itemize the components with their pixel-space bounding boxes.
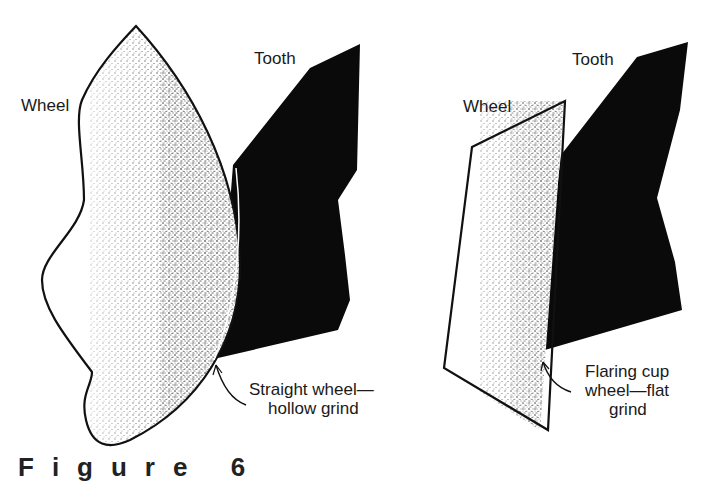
annotation-right-line2: wheel—flat [585, 381, 669, 400]
figure-caption-partial: Figure 6 [18, 452, 263, 483]
tooth-label-right: Tooth [572, 50, 614, 69]
annotation-right-line1: Flaring cup [585, 362, 669, 381]
wheel-label-left: Wheel [21, 96, 69, 115]
tooth-label-left: Tooth [254, 49, 296, 68]
annotation-left-line1: Straight wheel— [249, 380, 374, 399]
annotation-right-line3: grind [609, 400, 647, 419]
annotation-left-line2: hollow grind [268, 399, 359, 418]
wheel-label-right: Wheel [463, 97, 511, 116]
